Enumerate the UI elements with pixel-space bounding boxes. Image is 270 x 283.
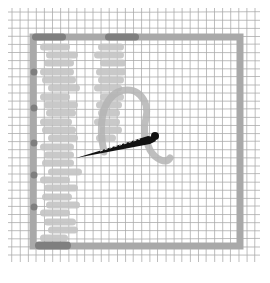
stitched-letter [40, 44, 126, 242]
embroidery-canvas-art [0, 0, 270, 283]
needlework-illustration [0, 0, 270, 283]
